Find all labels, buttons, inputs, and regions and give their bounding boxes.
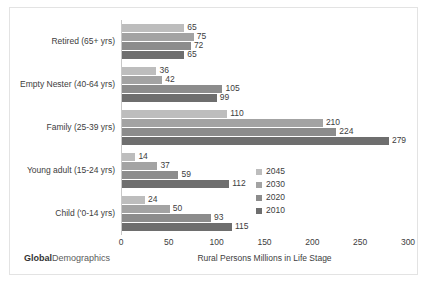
bar-2010-3 (122, 180, 229, 188)
bar-2020-2 (122, 128, 336, 136)
legend-item-2030[interactable]: 2030 (256, 179, 312, 190)
bar-row: 72 (122, 42, 408, 50)
x-tick-label: 150 (257, 237, 271, 247)
bar-value-label: 224 (339, 126, 353, 137)
x-axis-title: Rural Persons Millions in Life Stage (121, 253, 408, 263)
brand-regular-text: Demographics (52, 253, 110, 263)
chart-legend: 2045203020202010 (256, 166, 312, 218)
bar-2030-3 (122, 162, 157, 170)
bar-value-label: 93 (214, 212, 223, 223)
x-tick-label: 200 (305, 237, 319, 247)
x-axis-ticks: 050100150200250300 (121, 237, 408, 251)
bar-row: 224 (122, 128, 408, 136)
bar-2010-2 (122, 137, 389, 145)
bar-row: 210 (122, 119, 408, 127)
bar-value-label: 50 (173, 203, 182, 214)
bar-2045-4 (122, 196, 145, 204)
bar-row: 279 (122, 137, 408, 145)
bar-group: 364210599 (122, 67, 408, 103)
category-label: Empty Nester (40-64 yrs) (15, 79, 115, 90)
bar-row: 99 (122, 94, 408, 102)
category-label: Child ('0-14 yrs) (15, 208, 115, 219)
x-tick-label: 300 (401, 237, 415, 247)
legend-label: 2020 (266, 192, 285, 203)
bar-2020-1 (122, 85, 222, 93)
brand-bold-text: Global (24, 253, 52, 263)
bar-value-label: 37 (160, 160, 169, 171)
bar-2030-0 (122, 33, 194, 41)
bar-row: 110 (122, 110, 408, 118)
bar-value-label: 279 (392, 135, 406, 146)
bar-value-label: 65 (187, 22, 196, 33)
bar-row: 75 (122, 33, 408, 41)
y-axis-category-labels: Retired (65+ yrs)Empty Nester (40-64 yrs… (10, 20, 115, 235)
bar-value-label: 110 (230, 108, 244, 119)
bar-row: 105 (122, 85, 408, 93)
bar-2020-4 (122, 214, 211, 222)
legend-swatch-icon (256, 169, 262, 175)
bar-2045-1 (122, 67, 156, 75)
x-tick-label: 50 (164, 237, 173, 247)
brand-logo: GlobalDemographics (24, 253, 110, 263)
bar-2020-0 (122, 42, 191, 50)
bar-value-label: 14 (138, 151, 147, 162)
bar-2045-2 (122, 110, 227, 118)
bar-value-label: 112 (232, 178, 246, 189)
legend-item-2045[interactable]: 2045 (256, 166, 312, 177)
x-tick-label: 0 (119, 237, 124, 247)
legend-item-2020[interactable]: 2020 (256, 192, 312, 203)
bar-2010-0 (122, 51, 184, 59)
bar-2010-1 (122, 94, 217, 102)
legend-swatch-icon (256, 208, 262, 214)
category-label: Family (25-39 yrs) (15, 122, 115, 133)
category-label: Young adult (15-24 yrs) (15, 165, 115, 176)
bar-row: 115 (122, 223, 408, 231)
bar-row: 42 (122, 76, 408, 84)
bar-row: 65 (122, 51, 408, 59)
bar-2030-2 (122, 119, 323, 127)
legend-swatch-icon (256, 182, 262, 188)
bar-value-label: 99 (220, 92, 229, 103)
x-tick-label: 100 (210, 237, 224, 247)
bar-2030-1 (122, 76, 162, 84)
bar-group: 110210224279 (122, 110, 408, 146)
bar-value-label: 65 (187, 49, 196, 60)
bar-group: 65757265 (122, 24, 408, 60)
bar-2045-3 (122, 153, 135, 161)
legend-label: 2010 (266, 205, 285, 216)
x-tick-label: 250 (353, 237, 367, 247)
legend-item-2010[interactable]: 2010 (256, 205, 312, 216)
bar-value-label: 42 (165, 74, 174, 85)
chart-container: Retired (65+ yrs)Empty Nester (40-64 yrs… (9, 7, 418, 275)
legend-label: 2030 (266, 179, 285, 190)
bar-2045-0 (122, 24, 184, 32)
bar-2030-4 (122, 205, 170, 213)
bar-row: 65 (122, 24, 408, 32)
legend-label: 2045 (266, 166, 285, 177)
bar-2020-3 (122, 171, 178, 179)
bar-2010-4 (122, 223, 232, 231)
category-label: Retired (65+ yrs) (15, 36, 115, 47)
bar-value-label: 115 (235, 221, 249, 232)
bar-value-label: 59 (181, 169, 190, 180)
bar-value-label: 24 (148, 194, 157, 205)
bar-value-label: 210 (326, 117, 340, 128)
legend-swatch-icon (256, 195, 262, 201)
